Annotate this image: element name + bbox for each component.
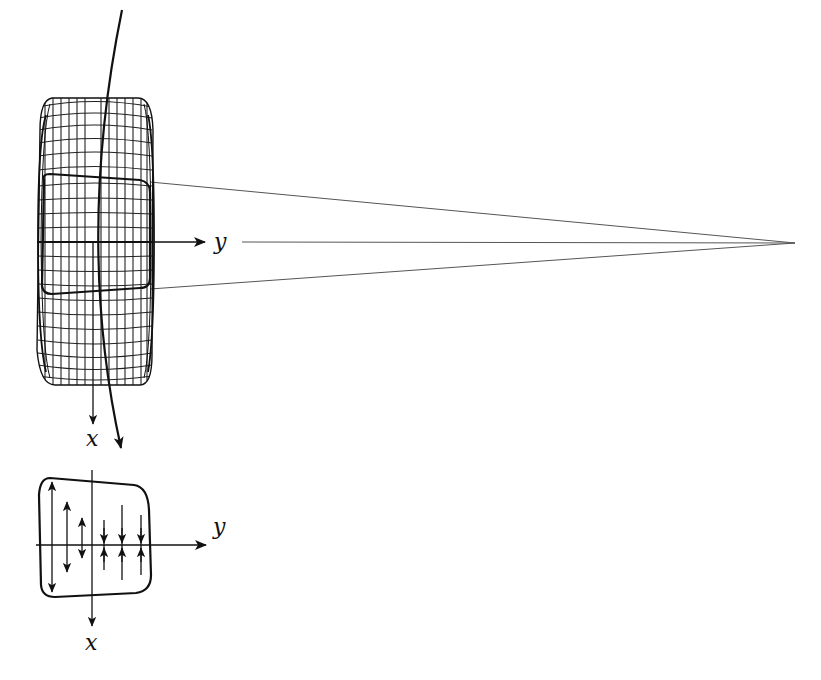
mesh-horizontal-lines: [38, 102, 152, 381]
upper-x-label: x: [86, 426, 99, 451]
perspective-line-center: [242, 242, 795, 243]
outward-arrows: [52, 482, 82, 592]
contact-patch-outline: [39, 478, 151, 597]
perspective-line-top: [150, 182, 795, 243]
perspective-line-bottom: [150, 243, 795, 289]
tire-diagram: y x y x: [0, 0, 821, 680]
rolling-direction-arc: [98, 10, 122, 448]
inward-arrows: [104, 505, 141, 580]
lower-x-label: x: [85, 630, 98, 655]
upper-tire-view: y x: [37, 10, 795, 451]
lower-contact-patch-view: y x: [36, 470, 226, 655]
lower-y-label: y: [212, 514, 226, 539]
contact-patch-projection: [42, 174, 150, 294]
perspective-lines: [150, 182, 795, 289]
upper-y-label: y: [213, 229, 227, 254]
